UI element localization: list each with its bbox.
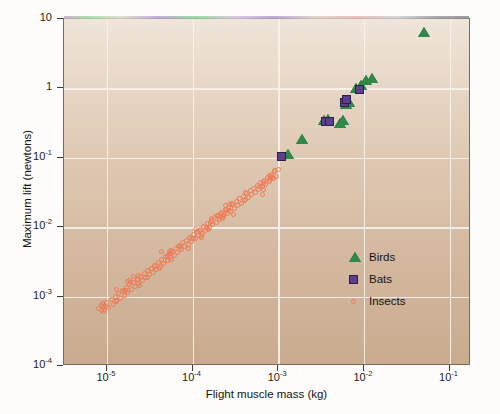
y-tick [57,226,63,227]
y-tick [57,157,63,158]
insect-data-point [169,257,174,262]
insect-data-point [157,266,162,271]
plot-area [63,18,470,365]
bird-data-point [418,27,430,37]
x-tick-label: 10-2 [333,371,393,383]
legend-label: Insects [369,295,405,307]
circle-icon [351,299,356,304]
y-tick [57,365,63,366]
insect-data-point [149,266,154,271]
insect-data-point [229,201,234,206]
insect-data-point [145,275,150,280]
y-tick [57,296,63,297]
bat-data-point [355,85,364,94]
x-axis-title: Flight muscle mass (kg) [63,388,470,400]
insect-data-point [221,212,226,217]
bat-data-point [342,95,351,104]
insect-data-point [243,197,248,202]
legend-label: Bats [369,273,392,285]
x-gridline [278,19,280,364]
x-tick-label: 10-5 [76,371,136,383]
insect-data-point [178,245,183,250]
y-tick-label: 10 [0,11,52,23]
y-gridline [64,88,469,90]
x-gridline [364,19,366,364]
x-tick-label: 10-4 [162,371,222,383]
legend-label: Birds [369,251,395,263]
square-icon [349,275,358,284]
x-gridline [450,19,452,364]
bird-data-point [337,115,349,125]
insect-data-point [186,246,191,251]
bat-data-point [277,152,286,161]
y-axis-title: Maximum lift (newtons) [21,59,33,319]
x-gridline [193,19,195,364]
y-gridline [64,158,469,160]
y-tick [57,18,63,19]
triangle-icon [349,252,361,262]
insect-data-point [137,283,142,288]
bat-data-point [325,117,334,126]
bird-data-point [366,73,378,83]
insect-data-point [199,235,204,240]
x-tick-label: 10-3 [247,371,307,383]
y-tick-label: 10-4 [0,358,52,370]
flight-lift-scatter-figure: 10110-110-210-310-410-510-410-310-210-1 … [0,0,500,414]
x-gridline [107,19,109,364]
insect-data-point [168,251,173,256]
x-tick-label: 10-1 [419,371,479,383]
insect-data-point [243,190,248,195]
insect-data-point [261,187,266,192]
y-gridline [64,227,469,229]
y-tick [57,87,63,88]
insect-data-point [260,192,265,197]
insect-data-point [231,212,236,217]
insect-data-point [123,288,128,293]
bird-data-point [296,134,308,144]
scan-fringe-artifact [64,16,469,19]
